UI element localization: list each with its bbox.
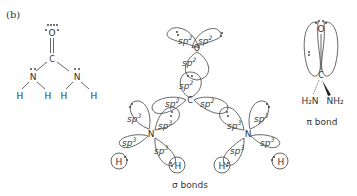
lewis-nitrogen-left: N [30,72,37,82]
sp3-label-nl4: sp3 [154,144,168,156]
sp2-label-o2: sp2 [198,34,212,46]
pi-carbon: C [318,71,324,80]
sigma-h4: H [278,157,285,167]
pi-oxygen: O [317,24,324,34]
sp3-label-nl2: sp3 [158,119,172,131]
sp2-label-c3: sp2 [200,97,214,109]
sigma-carbon: C [187,96,193,105]
sigma-h3: H [219,161,226,171]
sigma-bond-diagram: sp2 sp2 O sp2 sp2 C sp2 sp2 N sp3 sp3 sp… [111,28,288,190]
pi-bond-diagram: O C H₂N NH₂ π bond [301,20,344,127]
sp2-label-c1: sp2 [179,79,193,91]
lewis-h2: H [45,91,52,101]
sp3-label-nr3: sp3 [260,136,274,148]
sigma-caption: σ bonds [172,180,208,190]
sp3-label-nl1: sp3 [127,112,141,124]
sigma-h2: H [175,161,182,171]
lewis-structure: O C N N H H H H [17,24,98,101]
sigma-nitrogen-left: N [148,129,155,139]
urea-bonding-figure: (b) O C N N H H H H sp2 sp2 O [0,0,357,196]
sp3-label-nl3: sp3 [122,136,136,148]
sp3-label-nr4: sp3 [230,144,244,156]
sigma-nitrogen-right: N [245,129,252,139]
sp2-label-o3: sp2 [182,56,196,68]
sp3-label-nr1: sp3 [254,112,268,124]
lewis-oxygen: O [48,28,55,38]
lewis-nitrogen-right: N [74,72,81,82]
panel-label: (b) [6,9,20,20]
lewis-h4: H [91,91,98,101]
lewis-h1: H [17,91,24,101]
sp2-label-o1: sp2 [178,34,192,46]
pi-h2n: H₂N [301,96,318,106]
sigma-h1: H [116,157,123,167]
lewis-carbon: C [49,55,55,64]
pi-caption: π bond [307,117,338,127]
lewis-h3: H [61,91,68,101]
pi-nh2: NH₂ [326,96,344,106]
